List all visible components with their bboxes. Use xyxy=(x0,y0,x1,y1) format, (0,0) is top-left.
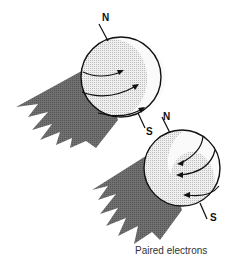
top-south-label: S xyxy=(146,127,153,137)
paired-electrons-diagram xyxy=(0,0,236,266)
top-north-label: N xyxy=(102,13,109,23)
bottom-south-label: S xyxy=(210,213,217,223)
bottom-north-label: N xyxy=(163,112,170,122)
figure-caption: Paired electrons xyxy=(135,246,207,256)
